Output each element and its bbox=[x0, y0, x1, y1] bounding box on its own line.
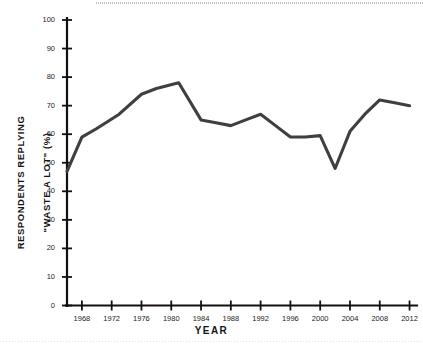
x-tick-label: 1976 bbox=[126, 314, 156, 323]
x-tick-label: 2000 bbox=[305, 314, 335, 323]
axes-group bbox=[66, 18, 417, 306]
x-tick-label: 1968 bbox=[67, 314, 97, 323]
y-tick-label: 10 bbox=[33, 272, 55, 281]
x-tick-label: 1996 bbox=[275, 314, 305, 323]
plot-area bbox=[0, 0, 423, 344]
y-tick-label: 40 bbox=[33, 186, 55, 195]
x-tick-label: 1972 bbox=[97, 314, 127, 323]
y-tick-label: 80 bbox=[33, 72, 55, 81]
x-tick-label: 2008 bbox=[365, 314, 395, 323]
y-tick-label: 70 bbox=[33, 101, 55, 110]
y-tick-label: 50 bbox=[33, 158, 55, 167]
chart-figure: RESPONDENTS REPLYING "WASTE A LOT" (%) Y… bbox=[0, 0, 423, 344]
x-tick-label: 1992 bbox=[246, 314, 276, 323]
x-tick-label: 1984 bbox=[186, 314, 216, 323]
y-tick-label: 30 bbox=[33, 215, 55, 224]
y-tick-label: 20 bbox=[33, 243, 55, 252]
x-tick-label: 2012 bbox=[395, 314, 423, 323]
y-tick-label: 60 bbox=[33, 129, 55, 138]
x-tick-label: 2004 bbox=[335, 314, 365, 323]
data-series-line bbox=[67, 83, 410, 172]
x-tick-label: 1988 bbox=[216, 314, 246, 323]
y-tick-label: 100 bbox=[33, 15, 55, 24]
x-tick-label: 1980 bbox=[156, 314, 186, 323]
y-tick-label: 0 bbox=[33, 301, 55, 310]
y-tick-label: 90 bbox=[33, 44, 55, 53]
